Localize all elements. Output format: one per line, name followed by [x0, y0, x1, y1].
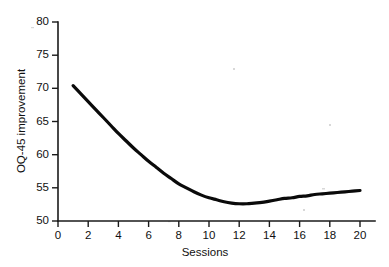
- y-tick-label: 80: [36, 15, 49, 27]
- x-tick-label: 10: [203, 229, 216, 241]
- x-tick-label: 4: [115, 229, 122, 241]
- x-tick-label: 16: [293, 229, 306, 241]
- chart-canvas: 80 75 70 65 60 55 50 OQ-45 improvement: [0, 0, 389, 267]
- chart-figure: 80 75 70 65 60 55 50 OQ-45 improvement: [0, 0, 389, 267]
- x-tick-label: 0: [55, 229, 61, 241]
- y-tick-label: 50: [36, 214, 49, 226]
- y-tick-label: 55: [36, 181, 49, 193]
- x-tick-label: 14: [263, 229, 276, 241]
- x-tick-label: 20: [354, 229, 367, 241]
- x-axis-title: Sessions: [182, 246, 229, 258]
- x-tick-label: 2: [85, 229, 91, 241]
- y-tick-label: 70: [36, 81, 49, 93]
- x-tick-label: 18: [323, 229, 336, 241]
- y-axis-title: OQ-45 improvement: [15, 68, 27, 173]
- y-tick-label: 75: [36, 48, 49, 60]
- x-tick-label: 6: [145, 229, 151, 241]
- x-tick-label: 8: [176, 229, 182, 241]
- y-tick-label: 65: [36, 115, 49, 127]
- y-tick-label: 60: [36, 148, 49, 160]
- x-tick-label: 12: [233, 229, 246, 241]
